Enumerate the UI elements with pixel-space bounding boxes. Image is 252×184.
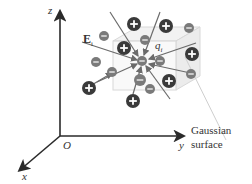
positive-charge-icon xyxy=(127,17,141,31)
negative-charge-icon xyxy=(140,35,150,45)
negative-charge-icon xyxy=(107,67,117,77)
diagram-canvas xyxy=(0,0,252,184)
gauss-law-diagram: z y x O Ei qi Gaussian surface xyxy=(0,0,252,184)
negative-charge-icon xyxy=(184,23,194,33)
negative-charge-icon xyxy=(134,74,146,86)
positive-charge-icon xyxy=(159,19,173,33)
x-axis-label: x xyxy=(22,171,27,182)
positive-charge-icon xyxy=(162,74,176,88)
surface-label-line1: Gaussian xyxy=(191,125,231,136)
y-axis-label: y xyxy=(179,140,184,151)
x-axis xyxy=(20,136,60,170)
positive-charge-icon xyxy=(82,81,96,95)
origin-label: O xyxy=(63,140,71,151)
z-axis-label: z xyxy=(48,5,52,16)
field-label-subscript: i xyxy=(91,40,93,48)
negative-charge-icon xyxy=(155,56,165,66)
negative-charge-icon xyxy=(137,56,147,66)
negative-charge-icon xyxy=(186,69,196,79)
charge-label: qi xyxy=(155,40,162,54)
field-label-main: E xyxy=(83,32,91,46)
negative-charge-icon xyxy=(91,57,101,67)
negative-charge-icon xyxy=(145,84,155,94)
negative-charge-icon xyxy=(99,31,109,41)
charge-label-subscript: i xyxy=(161,46,163,54)
positive-charge-icon xyxy=(126,94,140,108)
surface-label-line2: surface xyxy=(191,139,223,150)
positive-charge-icon xyxy=(185,47,199,61)
positive-charge-icon xyxy=(117,41,131,55)
field-label: Ei xyxy=(83,33,93,48)
